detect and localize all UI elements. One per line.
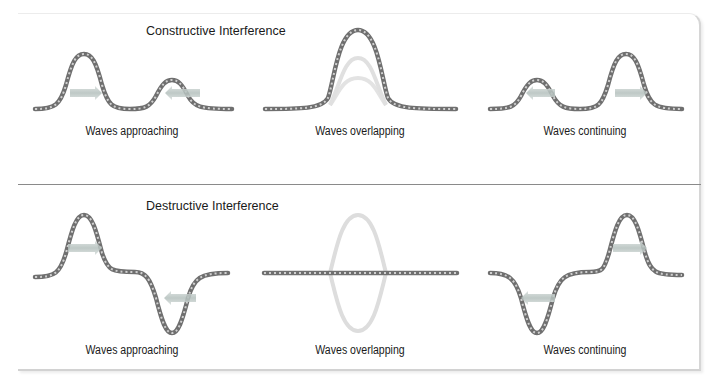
arrow-right-icon: [68, 241, 102, 255]
caption-destructive-continuing: Waves continuing: [515, 343, 656, 357]
constructive-overlapping-wave: [265, 30, 456, 109]
destructive-approaching-wave: [35, 215, 228, 333]
arrow-right-icon: [70, 86, 102, 100]
destructive-continuing-wave: [490, 215, 682, 333]
arrow-right-icon: [613, 241, 647, 255]
destructive-overlapping-wave: [264, 215, 457, 331]
caption-constructive-overlapping: Waves overlapping: [290, 124, 431, 138]
caption-constructive-approaching: Waves approaching: [62, 124, 203, 138]
interference-illustration: [0, 0, 714, 384]
caption-constructive-continuing: Waves continuing: [515, 124, 656, 138]
arrow-right-icon: [615, 86, 647, 100]
constructive-continuing-wave: [490, 54, 682, 109]
caption-destructive-overlapping: Waves overlapping: [290, 343, 431, 357]
constructive-approaching-wave: [35, 54, 232, 109]
caption-destructive-approaching: Waves approaching: [62, 343, 203, 357]
